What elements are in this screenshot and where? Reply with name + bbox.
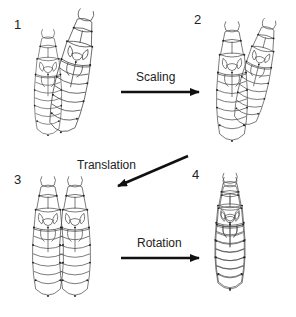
panel-2-number: 2: [194, 12, 201, 27]
panel-1-number: 1: [14, 17, 21, 32]
panel-4-number: 4: [192, 167, 199, 182]
diagram-canvas: [0, 0, 296, 317]
translation-label: Translation: [77, 158, 136, 172]
panel-1-figure: [34, 6, 103, 136]
panel-3-number: 3: [14, 172, 21, 187]
scaling-label: Scaling: [136, 70, 175, 84]
panel-2-figure: [216, 16, 284, 142]
panel-3-figure: [32, 176, 91, 297]
panel-4-figure: [214, 173, 245, 291]
rotation-label: Rotation: [137, 236, 182, 250]
